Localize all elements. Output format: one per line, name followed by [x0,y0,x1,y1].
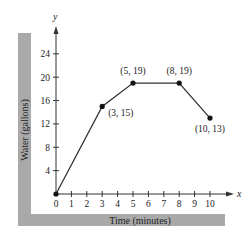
data-point [53,191,58,196]
y-tick-label: 24 [41,49,51,59]
x-axis-symbol: x [236,188,242,199]
point-label: (8, 19) [167,66,192,77]
x-tick-label: 5 [131,199,136,209]
data-point [177,80,182,85]
y-tick-label: 12 [41,119,51,129]
point-label: (3, 15) [108,108,133,119]
x-tick-label: 2 [84,199,89,209]
point-label: (10, 13) [195,124,225,135]
x-tick-label: 0 [54,199,59,209]
x-tick-label: 9 [192,199,197,209]
x-tick-label: 3 [100,199,105,209]
y-axis-arrow-icon [54,26,59,34]
data-line [56,83,210,194]
data-point [100,104,105,109]
y-axis-symbol: y [52,11,58,22]
x-tick-label: 4 [115,199,120,209]
line-chart: xy0123456789104812162024(3, 15)(5, 19)(8… [0,0,250,243]
x-tick-label: 6 [146,199,151,209]
data-point [207,115,212,120]
x-tick-label: 8 [177,199,182,209]
y-tick-label: 8 [45,143,50,153]
y-tick-label: 20 [41,73,51,83]
x-tick-label: 7 [161,199,166,209]
point-label: (5, 19) [120,66,145,77]
y-tick-label: 16 [41,96,51,106]
y-tick-label: 4 [45,166,50,176]
x-tick-label: 10 [205,199,215,209]
x-tick-label: 1 [69,199,74,209]
x-axis-arrow-icon [226,192,234,197]
data-point [130,80,135,85]
